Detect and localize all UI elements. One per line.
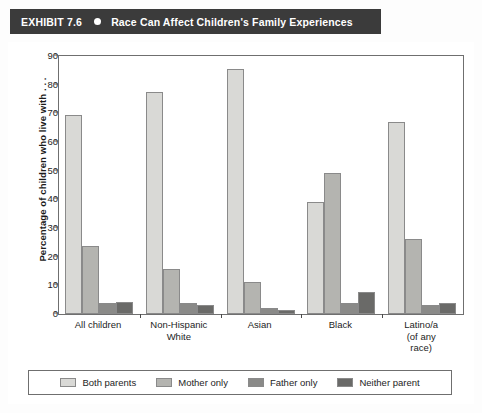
bar xyxy=(163,269,180,314)
x-axis-tick-mark xyxy=(301,314,302,318)
x-axis-group-label: All children xyxy=(52,319,144,331)
legend-swatch-icon xyxy=(60,378,76,387)
bar xyxy=(439,303,456,314)
x-axis-group-label-line: Latino/a xyxy=(375,319,467,331)
x-axis-group-label-line: All children xyxy=(52,319,144,331)
x-axis-group-label: Asian xyxy=(214,319,306,331)
bar xyxy=(278,310,295,314)
bar xyxy=(99,303,116,314)
x-axis-tick-mark xyxy=(140,314,141,318)
x-axis-group-label-line: White xyxy=(133,331,225,343)
bar xyxy=(180,303,197,314)
bar xyxy=(388,122,405,314)
bar xyxy=(82,246,99,314)
exhibit-figure: EXHIBIT 7.6 Race Can Affect Children's F… xyxy=(0,0,482,413)
bar xyxy=(244,282,261,314)
bar xyxy=(197,305,214,314)
legend-item[interactable]: Mother only xyxy=(156,377,228,388)
legend-item-label: Both parents xyxy=(82,377,136,388)
bar xyxy=(146,92,163,314)
legend-item-label: Neither parent xyxy=(359,377,419,388)
legend-item[interactable]: Both parents xyxy=(60,377,136,388)
bar xyxy=(341,303,358,314)
legend-swatch-icon xyxy=(337,378,353,387)
bar xyxy=(422,305,439,314)
x-axis-group-label-line: Non-Hispanic xyxy=(133,319,225,331)
x-axis-tick-mark xyxy=(221,314,222,318)
legend-item[interactable]: Neither parent xyxy=(337,377,419,388)
exhibit-title: Race Can Affect Children's Family Experi… xyxy=(111,16,353,28)
bullet-dot-icon xyxy=(94,18,101,25)
chart-container: Percentage of children who live with . .… xyxy=(8,42,474,404)
bar xyxy=(65,115,82,314)
bar xyxy=(405,239,422,314)
plot-area xyxy=(58,55,464,315)
x-axis-group-label-line: Black xyxy=(294,319,386,331)
x-axis-group-label-line: (of any xyxy=(375,331,467,343)
bars-layer xyxy=(59,56,463,314)
y-axis-ticks: 0102030405060708090 xyxy=(22,55,58,313)
bar xyxy=(116,302,133,314)
x-axis-group-label: Latino/a(of anyrace) xyxy=(375,319,467,354)
legend-item-label: Father only xyxy=(270,377,318,388)
bar xyxy=(358,292,375,314)
legend-item[interactable]: Father only xyxy=(248,377,318,388)
exhibit-number-label: EXHIBIT 7.6 xyxy=(21,16,82,28)
bar xyxy=(227,69,244,314)
legend-swatch-icon xyxy=(248,378,264,387)
x-axis-group-labels: All childrenNon-HispanicWhiteAsianBlackL… xyxy=(58,319,462,377)
legend-item-label: Mother only xyxy=(178,377,228,388)
bar xyxy=(324,173,341,314)
x-axis-group-label: Non-HispanicWhite xyxy=(133,319,225,342)
x-axis-group-label: Black xyxy=(294,319,386,331)
x-axis-tick-mark xyxy=(382,314,383,318)
chart-legend: Both parentsMother onlyFather onlyNeithe… xyxy=(28,370,452,395)
legend-swatch-icon xyxy=(156,378,172,387)
x-axis-group-label-line: Asian xyxy=(214,319,306,331)
exhibit-header-banner: EXHIBIT 7.6 Race Can Affect Children's F… xyxy=(10,9,381,34)
bar xyxy=(261,308,278,314)
x-axis-group-label-line: race) xyxy=(375,342,467,354)
bar xyxy=(307,202,324,314)
